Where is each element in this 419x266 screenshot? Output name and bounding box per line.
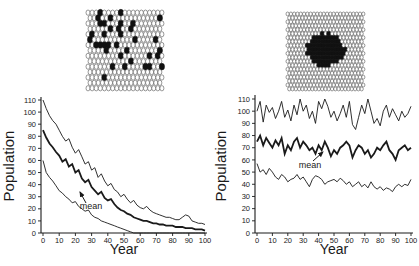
empty-cell — [350, 48, 353, 52]
empty-cell — [304, 79, 307, 83]
empty-cell — [345, 59, 348, 63]
empty-cell — [131, 32, 135, 37]
empty-cell — [148, 75, 152, 80]
empty-cell — [350, 63, 353, 67]
empty-cell — [355, 12, 358, 16]
empty-cell — [309, 28, 312, 32]
empty-cell — [286, 83, 289, 87]
empty-cell — [146, 37, 150, 42]
empty-cell — [301, 63, 304, 67]
empty-cell — [152, 10, 156, 15]
empty-cell — [286, 44, 289, 48]
empty-cell — [358, 75, 361, 79]
empty-cell — [329, 20, 332, 24]
empty-cell — [127, 86, 131, 91]
empty-cell — [307, 16, 310, 20]
empty-cell — [293, 75, 296, 79]
empty-cell — [358, 44, 361, 48]
empty-cell — [358, 52, 361, 56]
empty-cell — [352, 36, 355, 40]
empty-cell — [94, 75, 98, 80]
empty-cell — [294, 24, 297, 28]
empty-cell — [86, 53, 90, 58]
empty-cell — [291, 79, 294, 83]
empty-cell — [123, 86, 127, 91]
empty-cell — [332, 28, 335, 32]
empty-cell — [357, 40, 360, 44]
empty-cell — [330, 16, 333, 20]
empty-cell — [104, 80, 108, 85]
empty-cell — [137, 69, 141, 74]
empty-cell — [111, 10, 115, 15]
empty-cell — [92, 26, 96, 31]
empty-cell — [317, 79, 320, 83]
empty-cell — [150, 15, 154, 20]
empty-cell — [137, 59, 141, 64]
empty-cell — [141, 37, 145, 42]
empty-cell — [117, 80, 121, 85]
empty-cell — [102, 53, 106, 58]
empty-cell — [293, 59, 296, 63]
empty-cell — [104, 69, 108, 74]
empty-cell — [327, 16, 330, 20]
empty-cell — [152, 21, 156, 26]
empty-cell — [92, 37, 96, 42]
empty-cell — [301, 32, 304, 36]
empty-cell — [90, 86, 94, 91]
empty-cell — [143, 32, 147, 37]
empty-cell — [137, 48, 141, 53]
empty-cell — [353, 16, 356, 20]
empty-cell — [301, 87, 304, 91]
y-tick-label: 80 — [28, 132, 36, 141]
empty-cell — [141, 69, 145, 74]
empty-cell — [358, 36, 361, 40]
empty-cell — [334, 24, 337, 28]
occupied-cell — [157, 15, 162, 22]
empty-cell — [96, 69, 100, 74]
empty-cell — [125, 37, 129, 42]
empty-cell — [355, 28, 358, 32]
empty-cell — [133, 26, 137, 31]
empty-cell — [127, 75, 131, 80]
empty-cell — [100, 59, 104, 64]
y-tick-label: 40 — [28, 180, 36, 189]
empty-cell — [288, 40, 291, 44]
empty-cell — [107, 32, 111, 37]
empty-cell — [335, 67, 338, 71]
empty-cell — [340, 63, 343, 67]
empty-cell — [299, 52, 302, 56]
x-tick-label: 80 — [376, 236, 384, 245]
empty-cell — [357, 48, 360, 52]
empty-cell — [360, 79, 363, 83]
y-tick-label: 90 — [28, 120, 36, 129]
empty-cell — [298, 16, 301, 20]
empty-cell — [115, 64, 119, 69]
empty-cell — [158, 37, 162, 42]
empty-cell — [286, 52, 289, 56]
empty-cell — [135, 86, 139, 91]
empty-cell — [337, 63, 340, 67]
empty-cell — [121, 15, 125, 20]
empty-cell — [141, 59, 145, 64]
empty-cell — [291, 87, 294, 91]
empty-cell — [314, 71, 317, 75]
empty-cell — [131, 86, 135, 91]
empty-cell — [352, 52, 355, 56]
empty-cell — [304, 71, 307, 75]
empty-cell — [350, 16, 353, 20]
empty-cell — [288, 48, 291, 52]
empty-cell — [294, 55, 297, 59]
empty-cell — [125, 80, 129, 85]
left-mean-annotation: mean — [80, 201, 103, 211]
empty-cell — [139, 42, 143, 47]
empty-cell — [306, 75, 309, 79]
empty-cell — [288, 55, 291, 59]
empty-cell — [127, 32, 131, 37]
empty-cell — [316, 28, 319, 32]
empty-cell — [86, 21, 90, 26]
empty-cell — [88, 59, 92, 64]
empty-cell — [316, 83, 319, 87]
empty-cell — [286, 28, 289, 32]
empty-cell — [98, 64, 102, 69]
empty-cell — [350, 87, 353, 91]
